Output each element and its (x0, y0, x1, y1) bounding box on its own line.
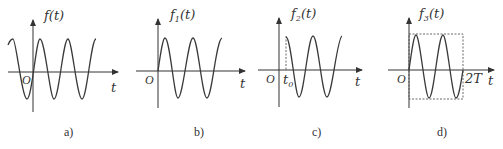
waveform (158, 38, 222, 98)
axis-label: t (240, 76, 246, 91)
origin-label: O (145, 73, 154, 87)
t0-label: t0 (283, 72, 293, 89)
axis-label: t (111, 80, 117, 95)
panel-c: f2(t) O t0 t c) (258, 6, 362, 139)
function-label: f(t) (43, 8, 64, 23)
2T-label: 2T (464, 71, 483, 86)
caption: d) (437, 125, 447, 139)
origin-label: O (22, 73, 31, 87)
function-label: f3(t) (418, 6, 444, 23)
function-label: f2(t) (290, 6, 316, 23)
origin-label: O (266, 72, 275, 86)
waveform (409, 35, 463, 98)
axis-label: t (488, 73, 494, 88)
function-label: f1(t) (169, 7, 195, 24)
panel-b: f1(t) O t b) (136, 7, 246, 139)
caption: a) (64, 125, 73, 139)
caption: c) (312, 125, 321, 139)
signal-figure: f(t) O t a) f1(t) O t b) f2(t) O t0 t c)… (0, 0, 503, 149)
waveform (286, 36, 342, 97)
panel-d: f3(t) O 2T t d) (388, 6, 494, 139)
axis-label: t (355, 74, 361, 89)
panel-a: f(t) O t a) (8, 8, 118, 139)
caption: b) (194, 125, 204, 139)
waveform (8, 39, 96, 99)
origin-label: O (397, 72, 406, 86)
